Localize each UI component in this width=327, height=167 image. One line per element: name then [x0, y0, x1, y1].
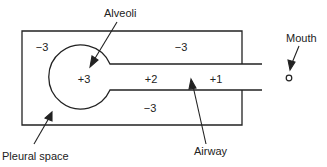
arrow-alveoli: [90, 22, 117, 67]
label-alveoli: Alveoli: [104, 8, 136, 19]
arrow-airway: [189, 79, 206, 144]
pressure-alveoli: +3: [78, 74, 91, 85]
label-airway: Airway: [194, 146, 227, 157]
pressure-pleural-top-left: −3: [36, 42, 49, 53]
pressure-pleural-top-right: −3: [175, 42, 188, 53]
pressure-airway-proximal: +2: [145, 74, 158, 85]
pressure-pleural-bottom: −3: [144, 103, 157, 114]
arrow-pleural-space: [34, 112, 52, 144]
pressure-airway-distal: +1: [210, 74, 223, 85]
arrow-mouth: [288, 46, 299, 70]
label-pleural-space: Pleural space: [2, 151, 69, 162]
lung-pressure-diagram: [0, 0, 327, 167]
label-mouth: Mouth: [286, 33, 317, 44]
mouth-opening-icon: [286, 75, 292, 81]
